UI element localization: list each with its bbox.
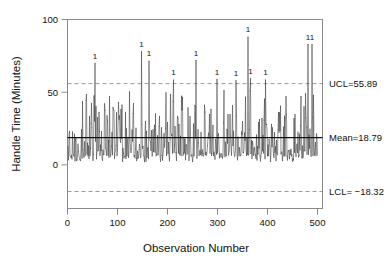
data-point: [69, 131, 70, 132]
data-point: [149, 60, 150, 61]
x-axis-title: Observation Number: [143, 242, 249, 254]
data-point: [154, 125, 155, 126]
data-point: [313, 95, 314, 96]
data-point: [71, 157, 72, 158]
data-point: [265, 79, 266, 80]
y-tick-label: 100: [42, 14, 58, 25]
data-point: [258, 122, 259, 123]
data-point: [123, 153, 124, 154]
data-point: [295, 114, 296, 115]
data-point: [306, 117, 307, 118]
data-point: [193, 123, 194, 124]
data-point: [194, 156, 195, 157]
data-point: [305, 150, 306, 151]
data-point: [183, 153, 184, 154]
data-point: [174, 145, 175, 146]
data-point: [165, 128, 166, 129]
data-point: [129, 91, 130, 92]
data-point: [126, 128, 127, 129]
data-point: [201, 152, 202, 153]
data-point: [119, 115, 120, 116]
violation-marker: 1: [93, 52, 98, 61]
ucl-label: UCL=55.89: [329, 78, 377, 89]
data-point: [228, 155, 229, 156]
data-point: [162, 160, 163, 161]
x-tick-label: 300: [210, 217, 226, 228]
data-point: [167, 122, 168, 123]
data-point: [181, 95, 182, 96]
control-chart: 050100 0100200300400500 111111111111 UCL…: [0, 0, 392, 265]
data-point: [197, 158, 198, 159]
data-point: [189, 140, 190, 141]
data-point: [155, 152, 156, 153]
data-point: [228, 114, 229, 115]
data-point: [81, 129, 82, 130]
data-point: [293, 158, 294, 159]
data-point: [236, 115, 237, 116]
data-point: [87, 143, 88, 144]
data-point: [96, 106, 97, 107]
data-point: [242, 134, 243, 135]
data-point: [255, 155, 256, 156]
data-point: [110, 141, 111, 142]
data-point: [280, 106, 281, 107]
data-point: [122, 104, 123, 105]
data-point: [89, 158, 90, 159]
data-point: [272, 146, 273, 147]
data-point: [141, 51, 142, 52]
data-point: [159, 126, 160, 127]
data-point: [68, 146, 69, 147]
data-point: [161, 155, 162, 156]
data-point: [91, 103, 92, 104]
data-point: [250, 78, 251, 79]
data-point: [94, 95, 95, 96]
data-point: [246, 155, 247, 156]
data-point: [275, 152, 276, 153]
data-point: [182, 97, 183, 98]
data-point: [203, 153, 204, 154]
data-point: [133, 113, 134, 114]
data-point: [177, 116, 178, 117]
data-point: [137, 158, 138, 159]
data-point: [286, 96, 287, 97]
data-point: [93, 154, 94, 155]
data-point: [250, 91, 251, 92]
data-point: [164, 133, 165, 134]
data-point: [315, 142, 316, 143]
data-point: [285, 118, 286, 119]
data-point: [254, 149, 255, 150]
data-point: [99, 131, 100, 132]
data-point: [83, 149, 84, 150]
data-point: [176, 152, 177, 153]
data-point: [269, 139, 270, 140]
data-point: [146, 161, 147, 162]
data-point: [245, 140, 246, 141]
violation-marker: 1: [171, 68, 176, 77]
data-point: [236, 80, 237, 81]
data-point: [158, 155, 159, 156]
data-point: [175, 126, 176, 127]
data-point: [120, 142, 121, 143]
data-point: [116, 112, 117, 113]
data-point: [80, 159, 81, 160]
data-point: [72, 131, 73, 132]
data-point: [116, 145, 117, 146]
data-point: [86, 100, 87, 101]
data-point: [312, 44, 313, 45]
data-point: [287, 155, 288, 156]
data-point: [118, 102, 119, 103]
violation-marker: 1: [263, 68, 268, 77]
data-point: [178, 118, 179, 119]
data-point: [245, 96, 246, 97]
data-point: [312, 117, 313, 118]
data-point: [217, 79, 218, 80]
data-point: [248, 37, 249, 38]
data-point: [223, 123, 224, 124]
data-point: [240, 155, 241, 156]
data-point: [171, 135, 172, 136]
data-point: [168, 142, 169, 143]
data-point: [86, 94, 87, 95]
data-point: [291, 156, 292, 157]
data-point: [117, 149, 118, 150]
data-point: [278, 112, 279, 113]
